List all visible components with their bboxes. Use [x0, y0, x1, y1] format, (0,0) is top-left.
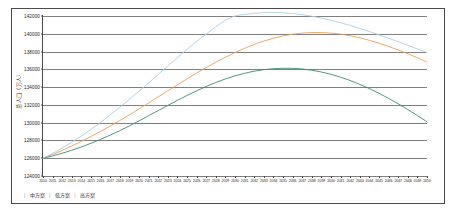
x-tick-label: 2015: [87, 179, 95, 183]
x-tick-label: 2043: [356, 179, 364, 183]
x-tick-mark: [398, 176, 399, 178]
x-tick-label: 2018: [116, 179, 124, 183]
series-line-低方案: [43, 68, 427, 158]
x-tick-label: 2021: [145, 179, 153, 183]
x-tick-mark: [216, 176, 217, 178]
x-tick-mark: [120, 176, 121, 178]
x-tick-label: 2046: [385, 179, 393, 183]
x-tick-label: 2029: [222, 179, 230, 183]
y-tick-label: 140000: [24, 31, 40, 36]
x-tick-label: 2036: [289, 179, 297, 183]
x-tick-mark: [245, 176, 246, 178]
x-tick-label: 2034: [270, 179, 278, 183]
x-tick-mark: [417, 176, 418, 178]
x-tick-label: 2024: [174, 179, 182, 183]
x-tick-mark: [293, 176, 294, 178]
x-tick-label: 2047: [394, 179, 402, 183]
x-tick-label: 2045: [375, 179, 383, 183]
x-tick-label: 2039: [318, 179, 326, 183]
y-axis-title: 总人口（万人）: [12, 0, 24, 188]
x-tick-mark: [427, 176, 428, 178]
x-tick-label: 2019: [126, 179, 134, 183]
x-tick-label: 2028: [212, 179, 220, 183]
chart-legend: |中方案|低方案|高方案: [24, 191, 95, 198]
x-tick-label: 2049: [414, 179, 422, 183]
y-tick-label: 128000: [24, 138, 40, 143]
x-tick-mark: [235, 176, 236, 178]
legend-item-中方案[interactable]: 中方案: [30, 191, 46, 198]
x-tick-label: 2042: [346, 179, 354, 183]
x-tick-mark: [149, 176, 150, 178]
x-tick-label: 2016: [97, 179, 105, 183]
x-tick-mark: [206, 176, 207, 178]
legend-separator: |: [70, 192, 80, 198]
x-tick-label: 2027: [202, 179, 210, 183]
legend-item-高方案[interactable]: 高方案: [80, 191, 96, 198]
x-tick-mark: [302, 176, 303, 178]
x-tick-label: 2011: [49, 179, 56, 183]
x-tick-mark: [331, 176, 332, 178]
y-tick-label: 124000: [24, 174, 40, 179]
x-tick-mark: [225, 176, 226, 178]
x-tick-mark: [110, 176, 111, 178]
x-tick-mark: [43, 176, 44, 178]
x-tick-mark: [369, 176, 370, 178]
x-tick-label: 2023: [164, 179, 172, 183]
y-tick-label: 126000: [24, 156, 40, 161]
x-tick-label: 2017: [106, 179, 114, 183]
x-tick-label: 2050: [423, 179, 431, 183]
x-tick-label: 2022: [154, 179, 162, 183]
x-tick-mark: [158, 176, 159, 178]
plot-area: 1240001260001280001300001320001340001360…: [43, 16, 427, 176]
x-tick-mark: [379, 176, 380, 178]
x-tick-label: 2026: [193, 179, 201, 183]
x-tick-label: 2020: [135, 179, 143, 183]
x-tick-mark: [91, 176, 92, 178]
x-tick-label: 2030: [231, 179, 239, 183]
y-tick-label: 132000: [24, 102, 40, 107]
x-tick-mark: [129, 176, 130, 178]
x-tick-mark: [350, 176, 351, 178]
x-tick-label: 2038: [308, 179, 316, 183]
x-tick-mark: [177, 176, 178, 178]
x-tick-mark: [254, 176, 255, 178]
x-tick-mark: [81, 176, 82, 178]
x-tick-label: 2040: [327, 179, 335, 183]
x-tick-mark: [197, 176, 198, 178]
x-tick-mark: [139, 176, 140, 178]
x-tick-mark: [187, 176, 188, 178]
x-tick-label: 2025: [183, 179, 191, 183]
series-line-高方案: [43, 13, 427, 159]
x-tick-label: 2032: [250, 179, 258, 183]
x-tick-mark: [101, 176, 102, 178]
series-lines: [43, 16, 427, 176]
x-tick-mark: [341, 176, 342, 178]
x-tick-label: 2014: [78, 179, 86, 183]
x-tick-mark: [283, 176, 284, 178]
x-tick-mark: [72, 176, 73, 178]
x-tick-label: 2037: [298, 179, 306, 183]
x-tick-label: 2048: [404, 179, 412, 183]
x-tick-label: 2010: [39, 179, 47, 183]
y-tick-label: 136000: [24, 67, 40, 72]
chart-figure: 总人口（万人） 12400012600012800013000013200013…: [0, 0, 458, 221]
y-tick-label: 138000: [24, 49, 40, 54]
x-tick-mark: [408, 176, 409, 178]
x-tick-mark: [264, 176, 265, 178]
x-tick-mark: [389, 176, 390, 178]
x-tick-mark: [53, 176, 54, 178]
x-tick-label: 2013: [68, 179, 76, 183]
y-tick-label: 142000: [24, 14, 40, 19]
x-tick-label: 2035: [279, 179, 287, 183]
x-tick-label: 2033: [260, 179, 268, 183]
x-tick-mark: [62, 176, 63, 178]
x-tick-mark: [360, 176, 361, 178]
legend-separator: |: [45, 192, 55, 198]
x-tick-label: 2041: [337, 179, 345, 183]
legend-item-低方案[interactable]: 低方案: [55, 191, 71, 198]
x-tick-mark: [321, 176, 322, 178]
x-tick-label: 2031: [241, 179, 249, 183]
x-tick-label: 2012: [58, 179, 66, 183]
x-tick-mark: [273, 176, 274, 178]
y-tick-label: 134000: [24, 85, 40, 90]
